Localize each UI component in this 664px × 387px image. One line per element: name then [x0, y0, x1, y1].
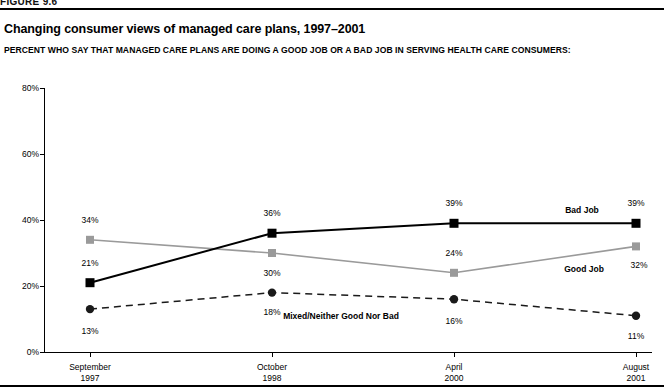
data-label-good-job-3: 32% — [630, 260, 647, 270]
marker-mixed-2 — [450, 295, 458, 303]
marker-bad-job-2 — [450, 219, 459, 228]
marker-bad-job-0 — [86, 278, 95, 287]
data-label-bad-job-0: 21% — [81, 258, 98, 268]
data-label-bad-job-2: 39% — [445, 198, 462, 208]
marker-mixed-3 — [632, 312, 640, 320]
chart-subtitle: PERCENT WHO SAY THAT MANAGED CARE PLANS … — [4, 45, 571, 55]
marker-good-job-0 — [86, 236, 94, 244]
x-axis-label-0: September 1997 — [69, 362, 111, 383]
x-axis-label-2: April 2000 — [445, 362, 464, 383]
data-label-good-job-0: 34% — [81, 215, 98, 225]
data-label-mixed-2: 16% — [445, 316, 462, 326]
marker-good-job-1 — [268, 249, 276, 257]
data-label-bad-job-1: 36% — [263, 208, 280, 218]
marker-bad-job-1 — [268, 229, 277, 238]
series-label-good-job: Good Job — [564, 264, 604, 274]
figure-panel: FIGURE 9.6 Changing consumer views of ma… — [0, 0, 664, 387]
marker-bad-job-3 — [632, 219, 641, 228]
x-tick-0 — [90, 352, 91, 357]
y-tick-label-80: 80% — [22, 83, 39, 93]
data-label-mixed-0: 13% — [81, 326, 98, 336]
figure-number: FIGURE 9.6 — [0, 0, 57, 7]
x-tick-1 — [272, 352, 273, 357]
x-axis-label-3: August 2001 — [623, 362, 649, 383]
marker-mixed-1 — [268, 288, 276, 296]
line-good-job — [90, 240, 636, 273]
data-label-bad-job-3: 39% — [627, 198, 644, 208]
data-label-mixed-3: 11% — [628, 331, 644, 341]
marker-good-job-2 — [450, 269, 458, 277]
y-tick-label-0: 0% — [27, 347, 39, 357]
chart-title: Changing consumer views of managed care … — [4, 22, 365, 36]
x-axis-line — [44, 352, 652, 353]
plot-area: 0% 20% 40% 60% 80% September 1997 Octobe… — [44, 88, 652, 352]
data-label-mixed-1: 18% — [263, 307, 280, 317]
y-tick-label-60: 60% — [22, 149, 39, 159]
series-label-mixed: Mixed/Neither Good Nor Bad — [283, 311, 399, 321]
x-tick-2 — [454, 352, 455, 357]
x-axis-label-1: October 1998 — [257, 362, 287, 383]
data-label-good-job-2: 24% — [445, 248, 462, 258]
line-bad-job — [90, 223, 636, 282]
y-tick-label-20: 20% — [22, 281, 39, 291]
y-tick-label-40: 40% — [22, 215, 39, 225]
data-label-good-job-1: 30% — [263, 268, 280, 278]
x-tick-3 — [636, 352, 637, 357]
marker-mixed-0 — [86, 305, 94, 313]
top-rule — [0, 8, 664, 10]
series-label-bad-job: Bad Job — [565, 205, 599, 215]
marker-good-job-3 — [632, 242, 640, 250]
